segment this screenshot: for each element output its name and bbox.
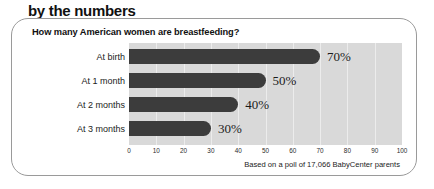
value-axis: 0102030405060708090100 <box>129 145 402 159</box>
axis-tick-label: 100 <box>397 147 408 155</box>
bar-value-label: 70% <box>327 48 351 65</box>
axis-tick-label: 90 <box>371 147 378 155</box>
bar-chart: At birthAt 1 monthAt 2 monthsAt 3 months… <box>32 43 402 168</box>
category-label: At birth <box>96 52 125 62</box>
bar-row: 70% <box>129 49 402 64</box>
category-axis: At birthAt 1 monthAt 2 monthsAt 3 months <box>32 43 129 145</box>
axis-tick-label: 80 <box>344 147 351 155</box>
source-note: Based on a poll of 17,066 BabyCenter par… <box>244 160 400 170</box>
axis-tick-label: 40 <box>235 147 242 155</box>
axis-tick-label: 20 <box>180 147 187 155</box>
bar-value-label: 50% <box>273 72 297 89</box>
category-label: At 3 months <box>77 124 125 134</box>
bar <box>129 121 211 136</box>
bar <box>129 73 266 88</box>
axis-tick-label: 0 <box>127 147 131 155</box>
bar-value-label: 30% <box>218 120 242 137</box>
category-label: At 2 months <box>77 100 125 110</box>
bar-row: 30% <box>129 121 402 136</box>
infographic-page: by the numbers How many American women a… <box>0 0 434 189</box>
bar-value-label: 40% <box>245 96 269 113</box>
category-label: At 1 month <box>81 76 125 86</box>
chart-question-title: How many American women are breastfeedin… <box>32 26 239 38</box>
kicker-text: by the numbers <box>28 3 328 19</box>
axis-tick-label: 70 <box>317 147 324 155</box>
bar <box>129 97 238 112</box>
axis-tick-label: 60 <box>289 147 296 155</box>
axis-tick-label: 10 <box>153 147 160 155</box>
axis-tick-label: 50 <box>262 147 269 155</box>
chart-panel: How many American women are breastfeedin… <box>11 18 417 176</box>
bar-row: 50% <box>129 73 402 88</box>
bar <box>129 49 320 64</box>
plot-area: 70%50%40%30% <box>129 43 402 145</box>
axis-tick-label: 30 <box>207 147 214 155</box>
bar-row: 40% <box>129 97 402 112</box>
